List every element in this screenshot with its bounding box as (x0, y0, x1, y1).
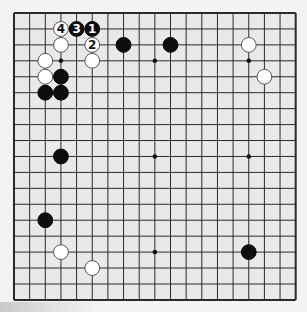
black-stone (163, 37, 178, 52)
black-stone (54, 69, 69, 84)
black-stone: 1 (85, 22, 100, 37)
white-stone (54, 245, 69, 260)
white-stone (85, 261, 100, 276)
star-point (59, 59, 64, 64)
page-shadow (0, 302, 100, 312)
black-stone (241, 245, 256, 260)
white-stone (38, 69, 53, 84)
white-stone (54, 37, 69, 52)
move-number-label: 3 (72, 22, 80, 36)
black-stone (54, 85, 69, 100)
white-stone (38, 53, 53, 68)
white-stone: 2 (85, 37, 100, 52)
white-stone (257, 69, 272, 84)
move-number-label: 2 (88, 38, 96, 52)
black-stone (116, 37, 131, 52)
black-stone: 3 (69, 22, 84, 37)
move-number-label: 4 (57, 22, 65, 36)
black-stone (38, 213, 53, 228)
go-board: 4312 (0, 0, 307, 312)
star-point (246, 154, 251, 159)
white-stone (241, 37, 256, 52)
black-stone (38, 85, 53, 100)
star-point (153, 250, 158, 255)
star-point (246, 59, 251, 64)
star-point (153, 59, 158, 64)
black-stone (54, 149, 69, 164)
white-stone (85, 53, 100, 68)
move-number-label: 1 (88, 22, 96, 36)
star-point (153, 154, 158, 159)
white-stone: 4 (54, 22, 69, 37)
